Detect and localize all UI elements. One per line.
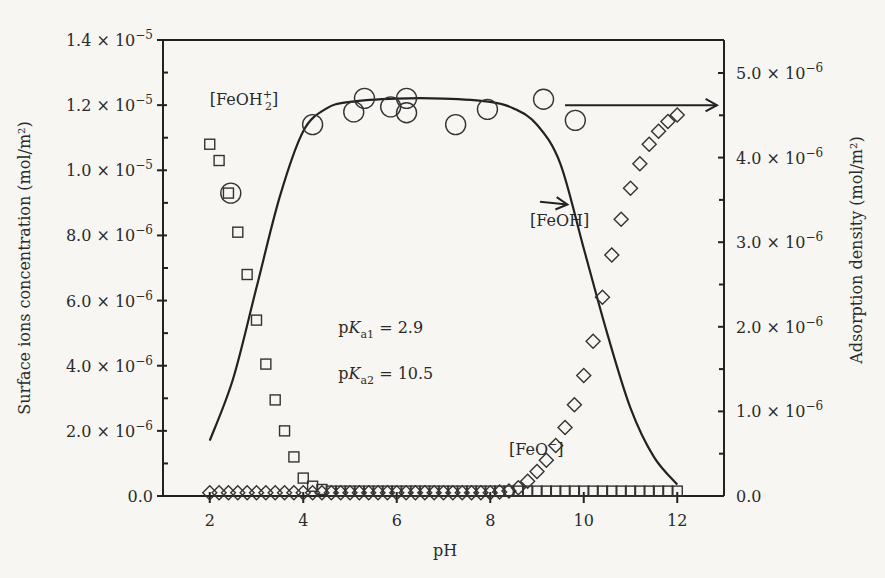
- feoh2-square-point: [663, 486, 673, 496]
- feoh2-square-point: [270, 395, 280, 405]
- right-tick-label: 5.0 × 10−6: [736, 61, 823, 83]
- left-tick-label: 4.0 × 10−6: [66, 354, 153, 376]
- left-tick-label: 1.4 × 10−5: [66, 28, 153, 50]
- left-tick-label: 1.2 × 10−5: [66, 93, 153, 115]
- feo-diamond-point: [240, 486, 254, 500]
- feoh2-square-point: [588, 486, 598, 496]
- right-tick-label: 1.0 × 10−6: [736, 399, 823, 421]
- feo-diamond-point: [268, 486, 282, 500]
- annotation-feoh: [FeOH]: [530, 211, 589, 230]
- feoh2-square-point: [289, 452, 299, 462]
- feoh2-square-point: [205, 139, 215, 149]
- feo-diamond-point: [558, 421, 572, 435]
- feo-diamond-point: [614, 212, 628, 226]
- right-y-axis: 0.01.0 × 10−62.0 × 10−63.0 × 10−64.0 × 1…: [718, 61, 823, 506]
- feo-diamond-point: [221, 486, 235, 500]
- left-tick-label: 2.0 × 10−6: [66, 419, 153, 441]
- right-tick-label: 4.0 × 10−6: [736, 146, 823, 168]
- feoh2-square-point: [214, 156, 224, 166]
- feo-diamond-point: [642, 137, 656, 151]
- annotations: [FeOH+2][FeOH][FeO−]pKa1 = 2.9pKa2 = 10.…: [210, 88, 717, 459]
- right-tick-label: 2.0 × 10−6: [736, 315, 823, 337]
- feoh2-square-point: [654, 486, 664, 496]
- feoh2-square-point: [541, 486, 551, 496]
- adsorption-circle-point: [344, 102, 364, 122]
- feoh2-square-point: [298, 473, 308, 483]
- annotation-pka2: pKa2 = 10.5: [338, 364, 433, 387]
- annotation-feo: [FeO−]: [509, 438, 564, 459]
- feoh2-square-point: [644, 486, 654, 496]
- feo-diamond-point: [231, 486, 245, 500]
- feo-diamond-point: [586, 334, 600, 348]
- annotation-pka1: pKa1 = 2.9: [338, 318, 423, 341]
- feo-diamond-point: [259, 486, 273, 500]
- x-tick-label: 8: [485, 511, 495, 530]
- feo-diamond-point: [605, 248, 619, 262]
- left-tick-label: 6.0 × 10−6: [66, 289, 153, 311]
- feo-diamond-point: [212, 486, 226, 500]
- feo-diamond-point: [278, 486, 292, 500]
- feoh2-square-point: [607, 486, 617, 496]
- x-tick-label: 10: [574, 511, 594, 530]
- left-tick-label: 8.0 × 10−6: [66, 223, 153, 245]
- feo-diamond-point: [287, 486, 301, 500]
- feoh2-square-point: [551, 486, 561, 496]
- feoh2-square-point: [223, 188, 233, 198]
- feoh2-square-point: [280, 426, 290, 436]
- x-tick-label: 6: [392, 511, 402, 530]
- feo-diamond-point: [652, 124, 666, 138]
- x-tick-label: 2: [205, 511, 215, 530]
- x-tick-label: 12: [667, 511, 687, 530]
- x-axis-title: pH: [433, 541, 457, 560]
- x-tick-label: 4: [298, 511, 308, 530]
- feoh2-square-point: [569, 486, 579, 496]
- left-y-axis: 0.02.0 × 10−64.0 × 10−66.0 × 10−68.0 × 1…: [66, 28, 168, 506]
- feoh2-square-point: [532, 486, 542, 496]
- feoh2-square-point: [242, 270, 252, 280]
- right-tick-label: 0.0: [736, 487, 761, 506]
- chart: 0.02.0 × 10−64.0 × 10−66.0 × 10−68.0 × 1…: [0, 0, 885, 578]
- feo-diamond-point: [577, 368, 591, 382]
- feoh2-square-point: [626, 486, 636, 496]
- feoh2-square-point: [597, 486, 607, 496]
- feoh2-square-point: [635, 486, 645, 496]
- right-tick-label: 3.0 × 10−6: [736, 230, 823, 252]
- left-tick-label: 1.0 × 10−5: [66, 158, 153, 180]
- feo-diamond-point: [250, 486, 264, 500]
- annotation-feoh2: [FeOH+2]: [210, 88, 278, 113]
- left-tick-label: 0.0: [128, 487, 153, 506]
- feo-diamond-point: [567, 398, 581, 412]
- adsorption-circle-point: [354, 88, 374, 108]
- feoh2-square-point: [616, 486, 626, 496]
- left-y-axis-title: Surface ions concentration (mol/m²): [15, 121, 34, 414]
- markers: [203, 88, 685, 499]
- feoh2-square-point: [560, 486, 570, 496]
- adsorption-circle-point: [565, 110, 585, 130]
- right-y-axis-title: Adsorption density (mol/m²): [847, 136, 866, 364]
- feoh2-square-point: [252, 315, 262, 325]
- feo-diamond-point: [624, 181, 638, 195]
- feoh2-square-point: [261, 359, 271, 369]
- feoh2-square-point: [233, 227, 243, 237]
- adsorption-circle-point: [534, 89, 554, 109]
- feo-diamond-point: [530, 465, 544, 479]
- feo-diamond-point: [633, 157, 647, 171]
- adsorption-circle-point: [446, 115, 466, 135]
